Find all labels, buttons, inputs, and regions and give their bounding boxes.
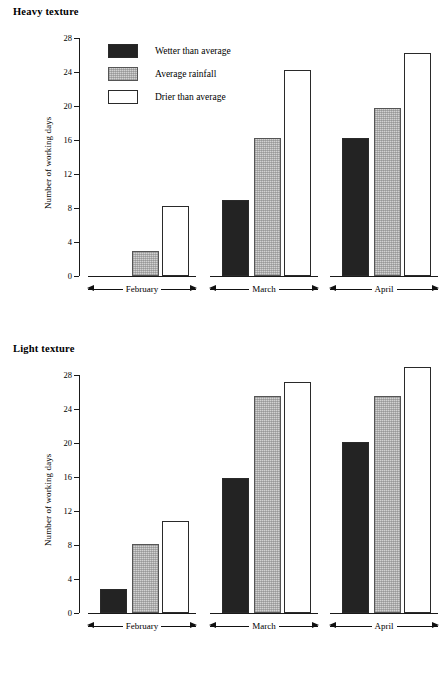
y-axis-title: Number of working days	[43, 454, 53, 546]
chart-panel-heavy-texture: Heavy texture 0481216202428Number of wor…	[0, 0, 446, 337]
bar-march-series-2	[254, 396, 281, 613]
y-axis-tick-label: 20	[48, 102, 72, 111]
left-arrow-icon	[330, 289, 372, 290]
group-baseline	[88, 613, 196, 614]
left-arrow-icon	[330, 626, 372, 627]
right-arrow-icon	[161, 289, 196, 290]
y-axis-tick	[74, 477, 79, 478]
y-axis-tick	[74, 106, 79, 107]
bar-april-series-3	[404, 53, 431, 276]
legend-label-drier: Drier than average	[155, 92, 226, 102]
y-axis-tick	[74, 613, 79, 614]
group-label-text: March	[251, 284, 277, 294]
y-axis-tick-label: 0	[48, 272, 72, 281]
y-axis-tick	[74, 242, 79, 243]
x-axis-group-label-february: February	[88, 284, 196, 294]
y-axis-tick-label: 4	[48, 238, 72, 247]
y-axis-tick	[74, 208, 79, 209]
chart-panel-light-texture: Light texture 0481216202428Number of wor…	[0, 337, 446, 674]
chart-legend: Wetter than average Average rainfall Dri…	[108, 42, 231, 111]
legend-label-wetter: Wetter than average	[155, 46, 231, 56]
bar-april-series-1	[342, 442, 369, 613]
legend-swatch-black-icon	[108, 44, 138, 58]
y-axis-tick	[74, 174, 79, 175]
group-baseline	[330, 276, 438, 277]
legend-swatch-gray-icon	[108, 67, 138, 81]
group-baseline	[88, 276, 196, 277]
right-arrow-icon	[397, 289, 439, 290]
right-arrow-icon	[279, 289, 318, 290]
left-arrow-icon	[88, 626, 123, 627]
y-axis-tick-label: 24	[48, 405, 72, 414]
y-axis-tick-label: 28	[48, 34, 72, 43]
group-label-text: February	[125, 621, 160, 631]
group-label-text: April	[374, 284, 395, 294]
y-axis-tick	[74, 443, 79, 444]
right-arrow-icon	[161, 626, 196, 627]
y-axis-tick	[74, 511, 79, 512]
bar-april-series-2	[374, 108, 401, 276]
legend-swatch-white-icon	[108, 90, 138, 104]
x-axis-group-label-march: March	[210, 284, 318, 294]
bar-march-series-1	[222, 200, 249, 277]
group-baseline	[210, 276, 318, 277]
y-axis-tick-label: 28	[48, 371, 72, 380]
left-arrow-icon	[210, 626, 249, 627]
group-baseline	[330, 613, 438, 614]
bar-february-series-3	[162, 206, 189, 276]
bar-april-series-1	[342, 138, 369, 276]
legend-label-average: Average rainfall	[155, 69, 216, 79]
group-label-text: February	[125, 284, 160, 294]
y-axis-tick	[74, 38, 79, 39]
y-axis-tick	[74, 409, 79, 410]
bar-march-series-2	[254, 138, 281, 276]
bar-february-series-2	[132, 544, 159, 613]
group-baseline	[210, 613, 318, 614]
plot-area-light: 0481216202428Number of working daysFebru…	[0, 337, 446, 674]
x-axis-group-label-april: April	[330, 284, 438, 294]
bar-april-series-2	[374, 396, 401, 613]
bar-february-series-1	[100, 589, 127, 613]
y-axis-tick	[74, 140, 79, 141]
x-axis-group-label-february: February	[88, 621, 196, 631]
bar-march-series-1	[222, 478, 249, 613]
y-axis-tick-label: 0	[48, 609, 72, 618]
bar-march-series-3	[284, 70, 311, 276]
y-axis-tick	[74, 579, 79, 580]
y-axis-title: Number of working days	[43, 117, 53, 209]
left-arrow-icon	[88, 289, 123, 290]
y-axis-tick	[74, 72, 79, 73]
x-axis-group-label-march: March	[210, 621, 318, 631]
x-axis-group-label-april: April	[330, 621, 438, 631]
bar-april-series-3	[404, 367, 431, 614]
right-arrow-icon	[279, 626, 318, 627]
bar-march-series-3	[284, 382, 311, 613]
group-label-text: April	[374, 621, 395, 631]
legend-item-drier: Drier than average	[108, 88, 231, 105]
y-axis-line	[79, 38, 80, 276]
legend-item-average: Average rainfall	[108, 65, 231, 82]
left-arrow-icon	[210, 289, 249, 290]
y-axis-tick-label: 20	[48, 439, 72, 448]
bar-february-series-2	[132, 251, 159, 277]
bar-february-series-3	[162, 521, 189, 613]
y-axis-tick-label: 4	[48, 575, 72, 584]
group-label-text: March	[251, 621, 277, 631]
y-axis-tick	[74, 276, 79, 277]
right-arrow-icon	[397, 626, 439, 627]
y-axis-line	[79, 375, 80, 613]
y-axis-tick-label: 24	[48, 68, 72, 77]
y-axis-tick	[74, 545, 79, 546]
y-axis-tick	[74, 375, 79, 376]
legend-item-wetter: Wetter than average	[108, 42, 231, 59]
